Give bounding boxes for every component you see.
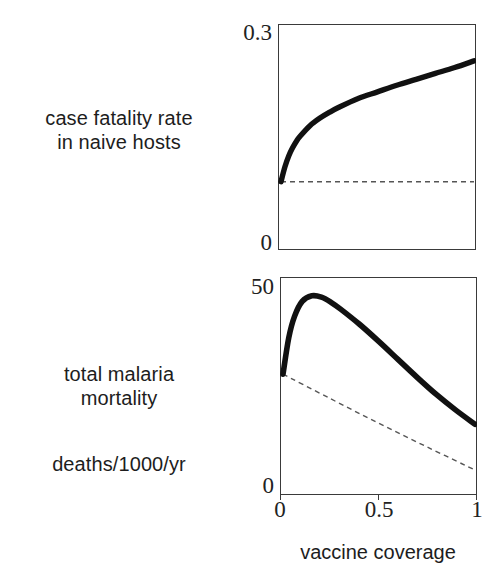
figure-container: case fatality ratein naive hosts total m… xyxy=(0,0,498,584)
y-tick-label-top-min: 0 xyxy=(214,231,272,254)
evolved-virulence-curve-top xyxy=(281,61,474,182)
plot-panel-total-mortality xyxy=(280,277,477,495)
panel-label-mortality-units: deaths/1000/yr xyxy=(2,452,236,476)
evolved-virulence-curve-bottom xyxy=(283,296,475,425)
y-tick-label-bottom-max: 50 xyxy=(216,275,274,298)
y-tick-label-bottom-min: 0 xyxy=(216,474,274,497)
plot-area-total-mortality xyxy=(280,277,477,495)
plot-area-case-fatality xyxy=(278,24,476,250)
x-axis-title: vaccine coverage xyxy=(258,540,498,564)
y-tick-label-top-max: 0.3 xyxy=(214,21,272,44)
x-tick-label-1: 1 xyxy=(460,498,494,521)
x-tick-label-0: 0 xyxy=(262,498,298,521)
panel-label-case-fatality: case fatality ratein naive hosts xyxy=(2,106,236,154)
plot-panel-case-fatality xyxy=(278,24,476,250)
baseline-dashed-curve-bottom xyxy=(283,374,475,470)
x-tick-label-05: 0.5 xyxy=(359,498,399,521)
panel-label-total-mortality: total malariamortality xyxy=(2,362,236,410)
